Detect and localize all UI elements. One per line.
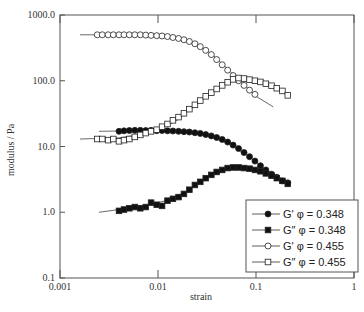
data-point <box>219 167 225 173</box>
data-point <box>192 182 198 188</box>
data-point <box>219 62 225 68</box>
data-point <box>203 132 209 138</box>
data-point <box>148 200 154 206</box>
data-point <box>181 191 187 197</box>
data-point <box>214 135 220 141</box>
data-point <box>247 166 253 172</box>
legend-marker <box>265 243 271 249</box>
data-point <box>154 202 160 208</box>
data-point <box>148 129 154 135</box>
data-point <box>285 181 291 187</box>
y-tick-label: 1000.0 <box>28 9 56 20</box>
data-point <box>105 137 111 143</box>
data-point <box>127 136 133 142</box>
data-point <box>241 82 247 88</box>
data-point <box>225 165 231 171</box>
x-tick-label: 1 <box>352 281 357 292</box>
fit-curve <box>80 35 273 107</box>
data-point <box>159 203 165 209</box>
data-point <box>280 88 286 94</box>
data-point <box>148 32 154 38</box>
data-point <box>176 114 182 120</box>
legend-label: G″ φ = 0.348 <box>283 224 346 236</box>
data-point <box>214 169 220 175</box>
y-axis-title: modulus / Pa <box>5 123 16 176</box>
data-point <box>247 87 253 93</box>
data-point <box>230 165 236 171</box>
legend-label: G′ φ = 0.348 <box>283 208 344 220</box>
data-point <box>208 52 214 58</box>
data-point <box>203 175 209 181</box>
legend-label: G′ φ = 0.455 <box>283 240 344 252</box>
data-point <box>274 175 280 181</box>
data-point <box>170 34 176 40</box>
data-point <box>257 163 263 169</box>
x-tick-label: 0.01 <box>149 281 167 292</box>
data-point <box>197 179 203 185</box>
data-point <box>209 172 215 178</box>
data-point <box>252 167 258 173</box>
data-point <box>209 90 215 96</box>
data-point <box>187 187 193 193</box>
data-point <box>203 47 209 53</box>
data-point <box>263 171 269 177</box>
data-point <box>280 178 286 184</box>
data-point <box>170 128 176 134</box>
data-point <box>247 154 253 160</box>
data-points <box>94 32 291 214</box>
data-point <box>214 86 220 92</box>
data-point <box>127 205 133 211</box>
data-point <box>138 132 144 138</box>
data-point <box>192 102 198 108</box>
data-point <box>225 67 231 73</box>
x-tick-label: 0.1 <box>250 281 263 292</box>
data-point <box>219 83 225 89</box>
data-point <box>187 106 193 112</box>
data-point <box>285 93 291 99</box>
legend-marker <box>265 259 271 265</box>
data-point <box>121 137 127 143</box>
data-point <box>121 207 127 213</box>
data-point <box>165 121 171 127</box>
data-point <box>181 110 187 116</box>
data-point <box>236 165 242 171</box>
data-point <box>165 198 171 204</box>
data-point <box>186 129 192 135</box>
data-point <box>132 204 138 210</box>
data-point <box>258 79 264 85</box>
legend-marker <box>265 227 271 233</box>
data-point <box>164 34 170 40</box>
y-tick-label: 100.0 <box>33 75 56 86</box>
data-point <box>219 136 225 142</box>
data-point <box>159 124 165 130</box>
data-point <box>230 142 236 148</box>
y-tick-label: 1.0 <box>43 206 56 217</box>
data-point <box>170 196 176 202</box>
data-point <box>225 139 231 145</box>
data-point <box>186 39 192 45</box>
data-point <box>143 204 149 210</box>
data-point <box>170 118 176 124</box>
y-tick-label: 10.0 <box>38 141 56 152</box>
legend-label: G″ φ = 0.455 <box>283 256 346 268</box>
chart: 0.0010.010.11 0.11.010.0100.01000.0 stra… <box>0 0 364 312</box>
data-point <box>225 79 231 85</box>
data-point <box>197 98 203 104</box>
data-point <box>241 76 247 82</box>
data-point <box>258 168 264 174</box>
data-point <box>236 75 242 81</box>
data-point <box>241 165 247 171</box>
data-point <box>269 173 275 179</box>
data-point <box>111 136 117 142</box>
data-point <box>154 127 160 133</box>
data-point <box>230 77 236 83</box>
data-point <box>236 146 242 152</box>
data-point <box>176 35 182 41</box>
data-point <box>241 150 247 156</box>
data-point <box>143 130 149 136</box>
data-point <box>252 78 258 84</box>
data-point <box>110 32 116 38</box>
legend: G′ φ = 0.348G″ φ = 0.348G′ φ = 0.455G″ φ… <box>246 200 358 272</box>
data-point <box>203 94 209 100</box>
y-tick-label: 0.1 <box>43 272 56 283</box>
